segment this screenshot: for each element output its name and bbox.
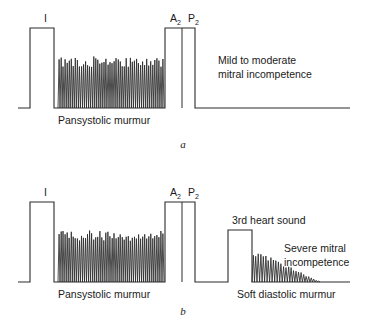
subscript: 2 [195,19,199,26]
aortic-pulmonary-closure-label: A2 [170,186,181,200]
diagnosis-annotation: Severe mitralincompetence [284,242,350,268]
subscript: 2 [177,193,181,200]
pansystolic-murmur [58,231,164,282]
phonocardiogram-figure: IA2P2Pansystolic murmurMild to moderatem… [0,0,368,322]
pansystolic-murmur [58,57,164,109]
annotation-line: Mild to moderate [218,54,296,66]
panel-b: IA2P2Pansystolic murmurSoft diastolic mu… [18,186,350,317]
pansystolic-murmur-caption: Pansystolic murmur [58,288,151,300]
panel-letter-b: b [180,305,186,317]
third-heart-sound-annotation: 3rd heart sound [232,214,306,226]
annotation-line: incompetence [284,256,350,268]
subscript: 2 [195,193,199,200]
pulmonary-closure-label: P2 [188,12,199,26]
diagnosis-annotation: Mild to moderatemitral incompetence [218,54,312,80]
panel-a: IA2P2Pansystolic murmurMild to moderatem… [18,12,350,150]
pulmonary-closure-label: P2 [188,186,199,200]
first-heart-sound-label: I [44,12,47,24]
subscript: 2 [177,19,181,26]
soft-diastolic-murmur-caption: Soft diastolic murmur [237,288,336,300]
panel-letter-a: a [180,138,186,150]
aortic-pulmonary-closure-label: A2 [170,12,181,26]
annotation-line: mitral incompetence [218,68,312,80]
annotation-line: 3rd heart sound [232,214,306,226]
first-heart-sound-label: I [44,186,47,198]
annotation-line: Severe mitral [284,242,346,254]
pansystolic-murmur-caption: Pansystolic murmur [58,114,151,126]
